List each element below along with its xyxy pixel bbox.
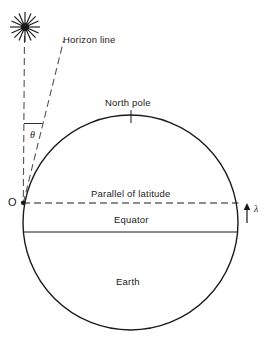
latitude-lambda-label: λ <box>254 203 259 214</box>
latitude-diagram: Horizon line North pole Parallel of lati… <box>0 0 265 343</box>
observer-point-dot <box>21 200 26 205</box>
angle-theta-label: θ <box>30 129 35 140</box>
star-burst <box>10 12 40 42</box>
latitude-arrow <box>244 203 251 223</box>
observer-point-label: O <box>8 196 17 208</box>
earth-label: Earth <box>116 276 140 287</box>
diagram-canvas <box>0 0 265 343</box>
parallel-of-latitude-label: Parallel of latitude <box>91 188 171 199</box>
horizon-line-label: Horizon line <box>63 34 116 45</box>
horizon-line <box>23 41 63 203</box>
vertical-sight-line <box>23 36 24 203</box>
north-pole-label: North pole <box>105 97 151 108</box>
equator-label: Equator <box>114 214 149 225</box>
